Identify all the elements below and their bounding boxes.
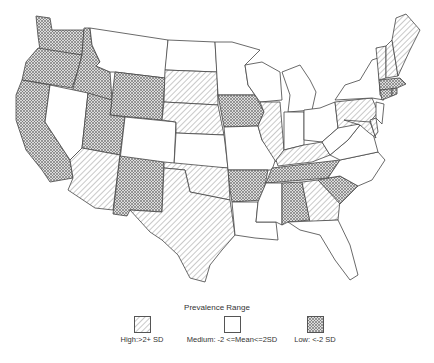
state-fl [288,220,358,280]
legend-label-low: Low: <-2 SD [294,335,335,344]
legend-item-medium: Medium: -2 <=Mean<=2SD [177,316,287,344]
state-sd [164,70,218,105]
legend-label-medium: Medium: -2 <=Mean<=2SD [187,335,277,344]
state-mi [282,65,316,112]
state-ia [218,95,264,127]
state-az [68,148,120,210]
state-in [284,112,304,150]
us-choropleth-map [0,0,434,300]
legend-item-low: Low: <-2 SD [285,316,345,344]
state-nd [165,40,217,72]
state-wy [110,72,165,120]
state-ma [379,78,406,90]
state-nm [113,156,164,216]
legend-title: Prevalence Range [0,303,434,312]
state-ri [392,88,397,96]
diagonal-hatch-swatch-icon [134,316,151,333]
legend-label-high: High:>2+ SD [121,335,164,344]
state-nj [376,102,384,124]
legend-item-high: High:>2+ SD [112,316,172,344]
crosshatch-swatch-icon [307,316,324,333]
blank-swatch-icon [224,316,241,333]
state-me [392,14,420,76]
state-ks [174,133,228,168]
state-ny [335,58,384,100]
